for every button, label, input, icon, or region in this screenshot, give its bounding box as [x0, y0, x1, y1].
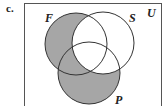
set-f-label: F: [44, 11, 53, 25]
venn-diagram: F S U P: [0, 0, 165, 106]
universe-label: U: [147, 6, 157, 20]
set-p-label: P: [115, 93, 123, 106]
set-s-label: S: [129, 11, 136, 25]
